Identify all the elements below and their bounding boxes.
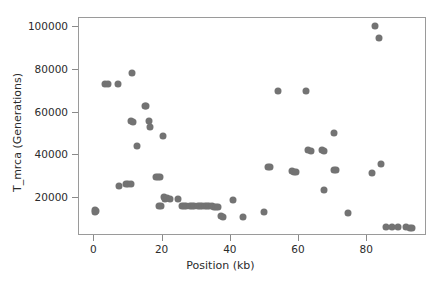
scatter-point — [302, 87, 309, 94]
y-tick-label: 20000 — [35, 191, 68, 203]
scatter-point — [344, 210, 351, 217]
scatter-point — [93, 207, 100, 214]
x-tick-label: 20 — [155, 243, 168, 255]
scatter-point — [134, 143, 141, 150]
x-tick-label: 0 — [90, 243, 97, 255]
scatter-point — [220, 213, 227, 220]
y-axis-title: T_mrca (Generations) — [11, 33, 24, 233]
scatter-point — [408, 224, 415, 231]
scatter-point — [142, 103, 149, 110]
x-tick-mark — [298, 235, 299, 241]
scatter-point — [214, 203, 221, 210]
scatter-point — [114, 80, 121, 87]
scatter-plot-figure: 20000400006000080000100000 020406080 Pos… — [0, 0, 441, 281]
scatter-point — [128, 70, 135, 77]
scatter-point — [369, 170, 376, 177]
x-axis-title: Position (kb) — [0, 259, 441, 272]
scatter-point — [156, 173, 163, 180]
scatter-point — [229, 197, 236, 204]
y-tick-label: 40000 — [35, 148, 68, 160]
x-tick-label: 40 — [223, 243, 236, 255]
scatter-point — [377, 161, 384, 168]
scatter-point — [115, 182, 122, 189]
scatter-point — [167, 195, 174, 202]
scatter-point — [240, 213, 247, 220]
scatter-point — [320, 186, 327, 193]
scatter-point — [260, 208, 267, 215]
x-tick-label: 60 — [291, 243, 304, 255]
y-tick-label: 60000 — [35, 106, 68, 118]
scatter-point — [267, 163, 274, 170]
x-tick-mark — [93, 235, 94, 241]
plot-area — [78, 17, 426, 235]
scatter-point — [376, 35, 383, 42]
scatter-point — [105, 81, 112, 88]
scatter-point — [395, 224, 402, 231]
scatter-point — [372, 22, 379, 29]
scatter-point — [160, 133, 167, 140]
x-tick-label: 80 — [360, 243, 373, 255]
scatter-point — [330, 129, 337, 136]
scatter-point — [293, 168, 300, 175]
scatter-point — [127, 181, 134, 188]
scatter-point — [307, 147, 314, 154]
scatter-point — [175, 195, 182, 202]
x-tick-mark — [366, 235, 367, 241]
scatter-point — [129, 118, 136, 125]
y-tick-label: 100000 — [28, 20, 68, 32]
scatter-point — [321, 147, 328, 154]
scatter-point — [274, 87, 281, 94]
y-tick-label: 80000 — [35, 63, 68, 75]
x-tick-mark — [230, 235, 231, 241]
scatter-point — [157, 202, 164, 209]
x-tick-mark — [162, 235, 163, 241]
scatter-point — [147, 124, 154, 131]
scatter-point — [332, 166, 339, 173]
